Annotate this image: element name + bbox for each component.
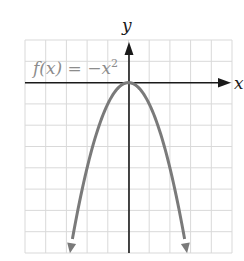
function-graph: x y f(x) = −x2	[0, 0, 244, 261]
x-axis-arrow-icon	[218, 78, 231, 87]
function-label-exponent: 2	[111, 57, 118, 70]
y-axis-arrow-icon	[125, 42, 134, 55]
curve-arrow-icon	[67, 243, 76, 254]
y-axis-label: y	[121, 15, 132, 35]
function-label: f(x) = −x2	[31, 57, 118, 78]
function-label-base: f(x) = −x	[31, 58, 111, 78]
x-axis-label: x	[234, 73, 244, 93]
curve-arrow-icon	[181, 243, 190, 254]
